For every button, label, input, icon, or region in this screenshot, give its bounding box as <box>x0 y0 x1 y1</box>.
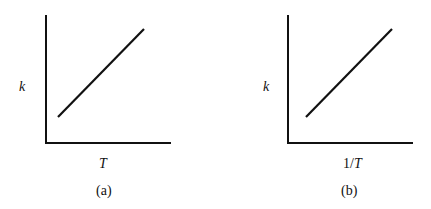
panel-b-ylabel: k <box>263 80 269 94</box>
panel-b-axes <box>288 15 413 143</box>
plots-canvas <box>0 0 431 209</box>
panel-a-ylabel: k <box>19 80 25 94</box>
panel-b-xlabel: 1/T <box>343 157 362 171</box>
panel-a-axes <box>46 15 171 143</box>
panel-b-line <box>306 29 392 117</box>
panel-b-xlabel-var: T <box>354 156 362 171</box>
panel-a-caption: (a) <box>96 184 112 198</box>
panel-b-caption: (b) <box>341 184 357 198</box>
panel-b-xlabel-prefix: 1/ <box>343 156 354 171</box>
panel-a-xlabel: T <box>99 157 107 171</box>
panel-a-xlabel-var: T <box>99 156 107 171</box>
panel-a-line <box>58 29 144 117</box>
panel-a-plot <box>46 15 171 143</box>
panel-b-plot <box>288 15 413 143</box>
figure: k T (a) k 1/T (b) <box>0 0 431 209</box>
